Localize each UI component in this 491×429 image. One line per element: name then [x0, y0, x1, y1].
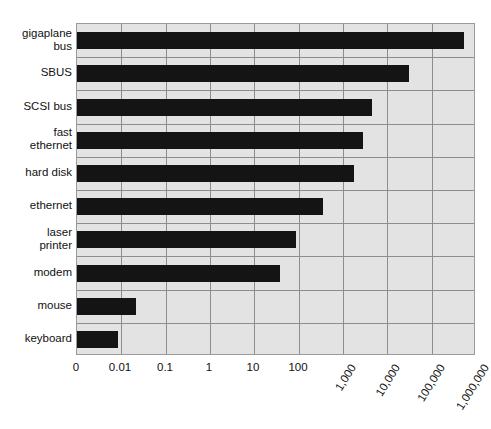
horizontal-gridline: [77, 124, 474, 125]
bar: [77, 331, 118, 348]
x-tick-label: 0.01: [109, 361, 131, 373]
bar: [77, 165, 354, 182]
horizontal-gridline: [77, 57, 474, 58]
bar: [77, 231, 296, 248]
x-tick-label: 1,000,000: [454, 362, 491, 412]
horizontal-gridline: [77, 323, 474, 324]
category-label: modem: [0, 266, 72, 279]
horizontal-gridline: [77, 157, 474, 158]
bar: [77, 99, 372, 116]
vertical-gridline: [432, 24, 433, 354]
bar: [77, 198, 323, 215]
x-tick-label: 10: [247, 361, 260, 373]
x-tick-label: 1: [206, 361, 212, 373]
x-tick-label: 100: [288, 361, 307, 373]
category-label: fast ethernet: [0, 126, 72, 152]
horizontal-gridline: [77, 290, 474, 291]
category-label: mouse: [0, 299, 72, 312]
x-tick-label: 0: [73, 361, 79, 373]
category-label: keyboard: [0, 332, 72, 345]
x-tick-label: 0.1: [157, 361, 173, 373]
bar: [77, 132, 363, 149]
category-label: SCSI bus: [0, 100, 72, 113]
horizontal-gridline: [77, 256, 474, 257]
horizontal-gridline: [77, 223, 474, 224]
bar: [77, 265, 280, 282]
horizontal-gridline: [77, 90, 474, 91]
bar: [77, 298, 136, 315]
category-label: gigaplane bus: [0, 27, 72, 53]
horizontal-gridline: [77, 190, 474, 191]
category-label: laser printer: [0, 226, 72, 252]
x-tick-label: 1,000: [333, 362, 358, 393]
category-label: SBUS: [0, 66, 72, 79]
category-label: ethernet: [0, 199, 72, 212]
x-tick-label: 10,000: [373, 362, 402, 398]
x-tick-label: 100,000: [415, 362, 447, 404]
plot-area: [76, 23, 475, 355]
bar: [77, 32, 464, 49]
category-label: hard disk: [0, 166, 72, 179]
bar: [77, 65, 409, 82]
